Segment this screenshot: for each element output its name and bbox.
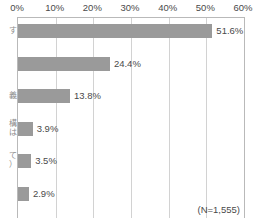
x-axis-tick-label: 10%: [38, 2, 72, 13]
bar-value-label: 2.9%: [33, 188, 55, 200]
x-axis-tick-label: 20%: [75, 2, 109, 13]
sample-size-annotation: (N=1,555): [197, 204, 240, 215]
category-label: て ）: [0, 151, 17, 169]
bar: [18, 187, 29, 201]
x-axis-tick-label: 40%: [151, 2, 185, 13]
bar-row: 2.9%: [18, 187, 244, 201]
bar: [18, 89, 70, 103]
category-label: 義: [0, 91, 17, 100]
bar-value-label: 24.4%: [114, 58, 141, 70]
bar-value-label: 3.9%: [37, 123, 59, 135]
bar: [18, 154, 31, 168]
bar-row: 24.4%: [18, 57, 244, 71]
bar-row: 13.8%: [18, 89, 244, 103]
bar-chart: 0%10%20%30%40%50%60% す義構 はて ） 51.6%24.4%…: [0, 0, 255, 218]
category-label: す: [0, 26, 17, 35]
x-axis-tick-label: 0%: [0, 2, 34, 13]
bar-row: 3.5%: [18, 154, 244, 168]
category-label: 構 は: [0, 119, 17, 137]
bar: [18, 122, 33, 136]
x-axis-tick-label: 30%: [113, 2, 147, 13]
x-axis-tick-label: 50%: [188, 2, 222, 13]
bar-row: 3.9%: [18, 122, 244, 136]
x-axis-tick-label: 60%: [226, 2, 255, 13]
bar: [18, 57, 110, 71]
bar-row: 51.6%: [18, 24, 244, 38]
plot-area: 51.6%24.4%13.8%3.9%3.5%2.9% (N=1,555): [17, 17, 245, 218]
bar-value-label: 51.6%: [216, 25, 243, 37]
bar-value-label: 13.8%: [74, 90, 101, 102]
bar-value-label: 3.5%: [35, 155, 57, 167]
bar: [18, 24, 212, 38]
